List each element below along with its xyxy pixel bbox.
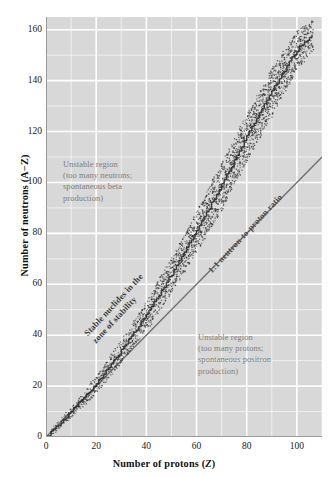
x-axis-title-close: ) xyxy=(212,458,216,469)
x-axis-title: Number of protons (Z) xyxy=(0,458,328,469)
y-tick-label: 40 xyxy=(4,329,42,339)
x-axis-title-text: Number of protons ( xyxy=(113,458,206,469)
x-tick-label: 0 xyxy=(26,441,66,451)
annotation-unstable-too-many-neutrons: Unstable region (too many neutrons; spon… xyxy=(63,159,132,204)
x-tick-label: 40 xyxy=(126,441,166,451)
y-tick-label: 160 xyxy=(4,24,42,34)
x-tick-label: 60 xyxy=(177,441,217,451)
annotation-unstable-too-many-protons: Unstable region (too many protons; spont… xyxy=(198,332,271,377)
y-tick-label: 140 xyxy=(4,75,42,85)
x-tick-label: 20 xyxy=(76,441,116,451)
x-axis-tick-labels: 020406080100 xyxy=(0,441,328,457)
x-tick-label: 80 xyxy=(227,441,267,451)
plot-area xyxy=(46,17,322,437)
y-tick-label: 0 xyxy=(4,431,42,441)
stable-nuclide-scatter xyxy=(46,17,322,437)
x-tick-label: 100 xyxy=(277,441,317,451)
y-tick-label: 20 xyxy=(4,380,42,390)
chart-figure: Unstable region (too many neutrons; spon… xyxy=(0,0,328,477)
y-axis-title: Number of neutrons (A−Z) xyxy=(19,106,30,326)
